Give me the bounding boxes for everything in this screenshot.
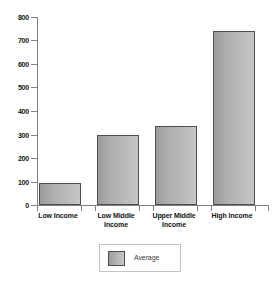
y-tick-100	[31, 182, 37, 183]
y-axis-label-300: 300	[3, 132, 29, 139]
y-tick-800	[31, 17, 37, 18]
y-tick-600	[31, 64, 37, 65]
y-tick-500	[31, 87, 37, 88]
y-tick-300	[31, 135, 37, 136]
y-tick-400	[31, 111, 37, 112]
x-axis-label-high-income: High Income	[203, 211, 261, 220]
y-axis-label-800: 800	[3, 14, 29, 21]
bar-low-middle-income[interactable]	[97, 135, 139, 205]
y-axis-label-400: 400	[3, 108, 29, 115]
x-axis-label-upper-middle-income: Upper Middle Income	[145, 211, 203, 229]
y-tick-700	[31, 40, 37, 41]
legend: Average	[99, 244, 181, 272]
legend-swatch-average	[108, 251, 125, 266]
y-axis-label-500: 500	[3, 84, 29, 91]
y-axis-label-200: 200	[3, 155, 29, 162]
y-axis-label-700: 700	[3, 37, 29, 44]
plot-area	[38, 18, 263, 205]
bar-high-income[interactable]	[213, 31, 255, 205]
bar-low-income[interactable]	[39, 183, 81, 205]
y-axis-label-0: 0	[3, 202, 29, 209]
y-axis-label-100: 100	[3, 179, 29, 186]
bar-chart: 800 700 600 500 400 300 200 100 0 Low In…	[0, 0, 280, 285]
y-axis-label-600: 600	[3, 61, 29, 68]
x-axis-label-low-income: Low Income	[29, 211, 87, 220]
bar-upper-middle-income[interactable]	[155, 126, 197, 205]
x-tick-end	[268, 206, 269, 211]
y-tick-200	[31, 158, 37, 159]
x-axis-label-low-middle-income: Low Middle Income	[87, 211, 145, 229]
legend-label-average: Average	[134, 254, 159, 262]
